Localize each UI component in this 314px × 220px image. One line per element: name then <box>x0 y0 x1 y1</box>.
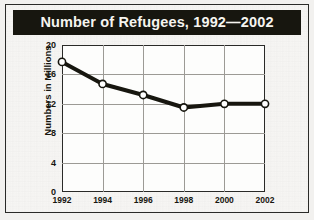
chart-title-bar: Number of Refugees, 1992—2002 <box>13 10 301 35</box>
x-tick-label: 2002 <box>245 195 285 205</box>
x-tick-label: 1996 <box>123 195 163 205</box>
chart-body: Numbers in Millions 048121620 1992199419… <box>13 37 301 209</box>
y-tick-label: 16 <box>16 69 56 79</box>
data-point-marker <box>99 80 106 87</box>
chart-title: Number of Refugees, 1992—2002 <box>40 15 273 30</box>
y-tick-label: 8 <box>16 128 56 138</box>
x-tick-label: 2000 <box>204 195 244 205</box>
data-point-marker <box>58 58 65 65</box>
y-tick-label: 12 <box>16 99 56 109</box>
y-axis-title: Numbers in Millions <box>42 45 53 137</box>
x-tick-label: 1994 <box>83 195 123 205</box>
series-polyline <box>62 62 265 108</box>
data-point-marker <box>180 104 187 111</box>
data-point-marker <box>221 100 228 107</box>
line-series <box>62 45 265 192</box>
data-point-marker <box>261 100 268 107</box>
chart-figure: Number of Refugees, 1992—2002 Numbers in… <box>0 0 314 220</box>
x-tick-label: 1992 <box>42 195 82 205</box>
y-tick-label: 20 <box>16 40 56 50</box>
data-point-marker <box>140 91 147 98</box>
y-tick-label: 4 <box>16 158 56 168</box>
x-tick-label: 1998 <box>164 195 204 205</box>
